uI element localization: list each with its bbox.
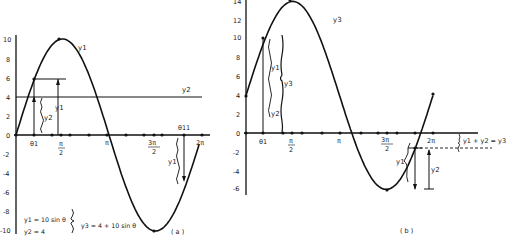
svg-text:0: 0 bbox=[236, 130, 240, 138]
y3-curve bbox=[246, 1, 433, 189]
svg-text:θ1: θ1 bbox=[259, 138, 267, 146]
svg-text:6: 6 bbox=[236, 73, 240, 81]
svg-text:y3: y3 bbox=[333, 16, 342, 24]
svg-text:12: 12 bbox=[233, 17, 241, 25]
panel-b-caption: ( b ) bbox=[400, 227, 413, 235]
svg-text:y1: y1 bbox=[271, 64, 280, 72]
svg-text:10: 10 bbox=[3, 36, 11, 44]
svg-text:-2: -2 bbox=[233, 149, 239, 157]
svg-text:10: 10 bbox=[233, 34, 241, 42]
svg-text:-4: -4 bbox=[233, 168, 239, 176]
svg-text:14: 14 bbox=[233, 0, 241, 6]
svg-text:y1: y1 bbox=[168, 158, 177, 166]
svg-text:y3: y3 bbox=[284, 80, 293, 88]
svg-text:π: π bbox=[105, 139, 109, 147]
panel-b-y-ticks: 14 12 10 8 6 4 2 0 -2 -4 -6 bbox=[233, 0, 241, 193]
svg-text:4: 4 bbox=[6, 94, 10, 102]
svg-text:2π: 2π bbox=[427, 137, 435, 145]
svg-text:y1 = 10 sin θ: y1 = 10 sin θ bbox=[24, 216, 66, 224]
svg-text:-6: -6 bbox=[233, 185, 239, 193]
panel-a-y-ticks: 10 8 6 4 2 0 -2 -4 -6 -8 -10 bbox=[0, 36, 11, 235]
svg-text:2: 2 bbox=[152, 148, 156, 156]
svg-text:-10: -10 bbox=[0, 227, 11, 235]
svg-text:8: 8 bbox=[6, 56, 10, 64]
svg-text:y2: y2 bbox=[44, 114, 53, 122]
svg-text:y2 = 4: y2 = 4 bbox=[24, 228, 45, 236]
svg-text:y1 + y2 = y3: y1 + y2 = y3 bbox=[463, 137, 506, 145]
panel-b bbox=[244, 0, 492, 195]
svg-text:y1: y1 bbox=[78, 44, 87, 52]
svg-text:2: 2 bbox=[385, 145, 389, 153]
svg-text:2π: 2π bbox=[196, 139, 204, 147]
panel-a-equations: y1 = 10 sin θ y2 = 4 y3 = 4 + 10 sin θ bbox=[24, 216, 136, 236]
svg-text:2: 2 bbox=[59, 149, 63, 157]
panel-a-curve-labels: y1 y2 y2 y1 y1 bbox=[44, 44, 191, 166]
panel-a-caption: ( a ) bbox=[171, 228, 184, 236]
svg-text:6: 6 bbox=[6, 75, 10, 83]
svg-text:y2: y2 bbox=[182, 86, 191, 94]
svg-text:θ11: θ11 bbox=[178, 124, 190, 132]
svg-text:3π: 3π bbox=[148, 139, 156, 147]
svg-text:8: 8 bbox=[236, 54, 240, 62]
svg-text:π: π bbox=[289, 137, 293, 145]
svg-text:-4: -4 bbox=[3, 170, 9, 178]
svg-text:y2: y2 bbox=[271, 110, 280, 118]
svg-text:2: 2 bbox=[6, 113, 10, 121]
svg-text:π: π bbox=[337, 137, 341, 145]
svg-text:π: π bbox=[59, 140, 63, 148]
svg-text:0: 0 bbox=[6, 132, 10, 140]
svg-text:-2: -2 bbox=[3, 151, 9, 159]
svg-text:2: 2 bbox=[236, 111, 240, 119]
panel-a-x-labels: θ1 π 2 π 3π 2 2π θ11 bbox=[30, 124, 204, 157]
panel-a bbox=[14, 35, 210, 234]
svg-text:-6: -6 bbox=[3, 189, 9, 197]
diagram-canvas: 10 8 6 4 2 0 -2 -4 -6 -8 -10 θ1 π 2 π 3π… bbox=[0, 0, 512, 246]
svg-text:y2: y2 bbox=[431, 166, 440, 174]
svg-text:3π: 3π bbox=[381, 136, 389, 144]
svg-text:θ1: θ1 bbox=[30, 140, 38, 148]
svg-text:y1: y1 bbox=[55, 104, 64, 112]
svg-text:-8: -8 bbox=[3, 208, 9, 216]
svg-text:y3 = 4 + 10 sin θ: y3 = 4 + 10 sin θ bbox=[81, 222, 136, 230]
svg-text:4: 4 bbox=[236, 92, 240, 100]
svg-text:y1: y1 bbox=[396, 158, 405, 166]
svg-text:2: 2 bbox=[289, 146, 293, 154]
